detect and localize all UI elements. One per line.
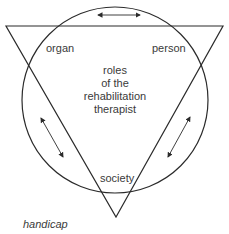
center-line-1: roles — [75, 64, 155, 77]
label-society: society — [100, 172, 134, 185]
center-line-3: rehabilitation — [75, 90, 155, 103]
diagram-canvas — [0, 0, 229, 234]
label-organ: organ — [46, 42, 74, 55]
center-line-2: of the — [75, 77, 155, 90]
label-person: person — [152, 42, 186, 55]
arrow-person-society — [168, 117, 190, 157]
triangle-shape — [6, 26, 223, 217]
center-line-4: therapist — [75, 103, 155, 116]
arrow-organ-society — [41, 118, 63, 157]
label-center: roles of the rehabilitation therapist — [75, 64, 155, 116]
caption-handicap: handicap — [23, 218, 68, 231]
